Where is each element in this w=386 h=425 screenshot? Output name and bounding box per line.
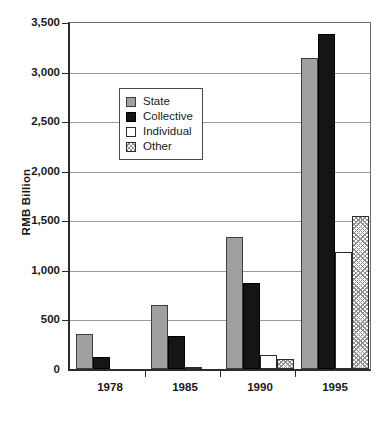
x-axis-tick-label: 1978 (70, 381, 150, 393)
y-axis-tick-label: 0 (8, 364, 60, 375)
y-axis-tick-label: 500 (8, 314, 60, 325)
bar-collective-1995 (318, 34, 335, 369)
plot-area (68, 22, 371, 371)
bar-individual-1990 (260, 355, 277, 369)
bar-state-1978 (76, 334, 93, 369)
y-axis-title: RMB Billion (20, 142, 32, 262)
legend-item-individual: Individual (126, 124, 193, 139)
y-axis-tick-label: 2,000 (8, 166, 60, 177)
x-axis-tick-mark (220, 371, 221, 377)
legend-swatch-state-icon (126, 97, 136, 107)
x-axis-tick-mark (145, 371, 146, 377)
y-axis-tick-label: 1,500 (8, 215, 60, 226)
bar-collective-1978 (93, 357, 110, 369)
bar-individual-1995 (335, 252, 352, 369)
bar-state-1995 (301, 58, 318, 369)
legend-label: Other (143, 140, 172, 153)
legend-swatch-individual-icon (126, 127, 136, 137)
legend-item-state: State (126, 94, 193, 109)
x-axis-tick-mark (295, 371, 296, 377)
legend-item-other: Other (126, 139, 193, 154)
chart-legend: StateCollectiveIndividualOther (119, 88, 203, 160)
y-axis-tick-label: 3,500 (8, 17, 60, 28)
x-axis-tick-label: 1995 (295, 381, 375, 393)
bar-other-1995 (352, 216, 369, 369)
x-axis-tick-label: 1990 (220, 381, 300, 393)
y-axis-tick-label: 1,000 (8, 265, 60, 276)
bar-collective-1985 (168, 336, 185, 369)
bar-state-1990 (226, 237, 243, 369)
legend-swatch-collective-icon (126, 112, 136, 122)
legend-label: Individual (143, 125, 192, 138)
legend-item-collective: Collective (126, 109, 193, 124)
bar-state-1985 (151, 305, 168, 369)
x-axis-tick-label: 1985 (145, 381, 225, 393)
bar-collective-1990 (243, 283, 260, 369)
y-axis-tick-label: 3,000 (8, 67, 60, 78)
legend-label: Collective (143, 110, 193, 123)
legend-swatch-other-icon (126, 142, 136, 152)
y-axis-tick-label: 2,500 (8, 116, 60, 127)
bar-individual-1985 (185, 367, 202, 369)
bar-other-1990 (277, 359, 294, 369)
legend-label: State (143, 95, 170, 108)
bar-chart: RMB Billion 05001,0001,5002,0002,5003,00… (0, 0, 386, 425)
